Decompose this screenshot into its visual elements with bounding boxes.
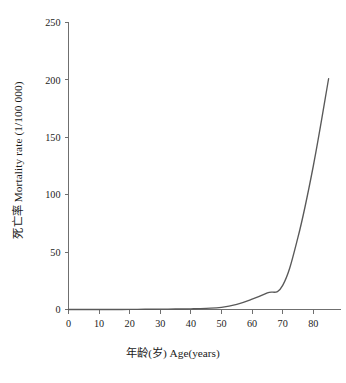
x-tick-label: 50 [216, 318, 226, 329]
chart-figure: 死亡率 Mortality rate (1/100 000) 050100150… [0, 0, 346, 383]
x-tick-label: 60 [247, 318, 257, 329]
y-tick-label: 50 [50, 247, 60, 258]
x-tick-label: 30 [155, 318, 165, 329]
y-tick-label: 0 [55, 304, 60, 315]
y-tick-label: 150 [45, 132, 60, 143]
mortality-rate-line [69, 79, 329, 310]
y-tick-label: 250 [45, 17, 60, 28]
x-axis-title: 年龄(岁) Age(years) [0, 344, 346, 360]
data-series-group [69, 79, 329, 310]
axes-group [69, 23, 341, 310]
x-tick-label: 20 [125, 318, 135, 329]
tick-marks-group [65, 23, 314, 315]
tick-labels-group: 05010015020025001020304050607080 [45, 17, 318, 328]
x-tick-label: 80 [308, 318, 318, 329]
y-tick-label: 200 [45, 75, 60, 86]
x-tick-label: 0 [66, 318, 71, 329]
x-tick-label: 10 [94, 318, 104, 329]
y-tick-label: 100 [45, 189, 60, 200]
x-tick-label: 40 [186, 318, 196, 329]
line-chart-plot: 05010015020025001020304050607080 [0, 0, 346, 383]
x-tick-label: 70 [278, 318, 288, 329]
